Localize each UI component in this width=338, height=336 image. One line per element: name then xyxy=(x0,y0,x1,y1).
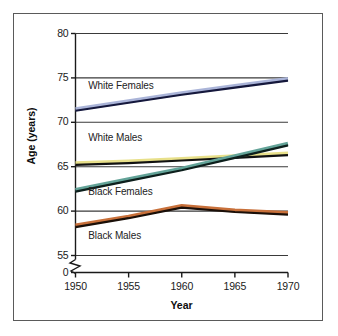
x-axis-title: Year xyxy=(75,299,288,311)
series-label-white-females: White Females xyxy=(88,80,153,91)
series-label-black-females: Black Females xyxy=(88,186,152,197)
y-tick-label-zero: 0 xyxy=(42,266,69,278)
x-tick-label-1955: 1955 xyxy=(104,280,154,292)
x-tick-label-1960: 1960 xyxy=(157,280,207,292)
y-axis-break-zigzag xyxy=(70,260,80,274)
chart-figure: 556065707580019501955196019651970 Age (y… xyxy=(0,0,338,336)
series-line-1 xyxy=(76,155,289,165)
y-axis-title: Age (years) xyxy=(25,91,37,181)
series-band-1 xyxy=(76,154,289,164)
y-tick-label-75: 75 xyxy=(42,71,69,83)
y-tick-label-60: 60 xyxy=(42,204,69,216)
series-label-black-males: Black Males xyxy=(88,230,141,241)
series-label-white-males: White Males xyxy=(88,132,142,143)
x-tick-label-1970: 1970 xyxy=(263,280,313,292)
y-tick-label-80: 80 xyxy=(42,27,69,39)
x-tick-label-1965: 1965 xyxy=(210,280,260,292)
y-tick-label-65: 65 xyxy=(42,160,69,172)
y-tick-label-55: 55 xyxy=(42,249,69,261)
x-tick-label-1950: 1950 xyxy=(51,280,101,292)
y-tick-label-70: 70 xyxy=(42,115,69,127)
